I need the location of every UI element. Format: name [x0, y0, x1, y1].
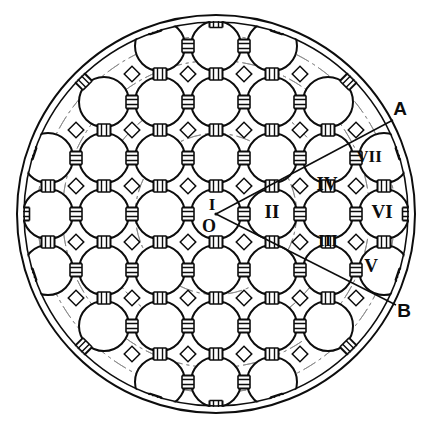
connector-body	[238, 208, 250, 221]
connector-body	[98, 180, 111, 192]
element-connector	[98, 180, 111, 192]
element-connector	[154, 68, 167, 80]
element-connector	[126, 96, 138, 109]
element-circle	[135, 133, 185, 183]
element-connector	[238, 264, 250, 277]
element-connector	[126, 264, 138, 277]
element-connector	[154, 348, 167, 360]
element-connector	[42, 180, 55, 192]
connector-body	[154, 292, 167, 304]
element-3-label: III	[318, 231, 338, 250]
connector-body	[238, 320, 250, 333]
element-connector	[238, 152, 250, 165]
connector-body	[322, 292, 335, 304]
element-connector	[70, 264, 82, 277]
element-connector	[378, 236, 391, 248]
element-circle	[191, 357, 241, 407]
connector-body	[126, 152, 138, 165]
connector-body	[238, 96, 250, 109]
connector-body	[238, 376, 250, 389]
element-connector	[238, 40, 250, 53]
element-connector	[182, 96, 194, 109]
origin-label-upper: I	[209, 195, 216, 214]
element-connector	[126, 208, 138, 221]
connector-body	[182, 152, 194, 165]
connector-body	[98, 292, 111, 304]
element-2-label: II	[265, 201, 280, 222]
connector-body	[266, 68, 279, 80]
connector-body	[98, 124, 111, 136]
element-connector	[350, 208, 362, 221]
element-circle	[79, 245, 129, 295]
connector-body	[154, 124, 167, 136]
element-connector	[210, 348, 223, 360]
packing-diagram: AB IIIIIIVVVIVII IO	[0, 0, 438, 435]
connector-body	[210, 124, 223, 136]
origin-dot	[214, 212, 217, 215]
connector-body	[294, 152, 306, 165]
connector-body	[210, 68, 223, 80]
figure-container: AB IIIIIIVVVIVII IO	[0, 0, 438, 435]
connector-body	[42, 180, 55, 192]
element-connector	[126, 320, 138, 333]
element-connector	[210, 68, 223, 80]
connector-body	[154, 236, 167, 248]
element-connector	[182, 152, 194, 165]
element-connector	[210, 180, 223, 192]
connector-body	[154, 180, 167, 192]
element-connector	[154, 124, 167, 136]
element-circle	[247, 245, 297, 295]
connector-body	[266, 292, 279, 304]
connector-body	[70, 152, 82, 165]
element-circle	[135, 189, 185, 239]
origin-label-lower: O	[202, 216, 216, 236]
element-connector	[154, 292, 167, 304]
element-connector	[182, 40, 194, 53]
connector-body	[378, 180, 391, 192]
connector-body	[210, 348, 223, 360]
connector-body	[266, 348, 279, 360]
connector-body	[154, 348, 167, 360]
element-circle	[191, 77, 241, 127]
element-circle	[135, 77, 185, 127]
element-connector	[98, 124, 111, 136]
element-5-label: V	[364, 255, 378, 276]
element-4-label: IV	[316, 173, 337, 194]
element-connector	[126, 152, 138, 165]
connector-body	[126, 96, 138, 109]
connector-body	[70, 264, 82, 277]
element-connector	[154, 236, 167, 248]
element-circle	[135, 245, 185, 295]
connector-body	[182, 40, 194, 53]
element-connector	[294, 96, 306, 109]
element-connector	[238, 320, 250, 333]
connector-body	[182, 376, 194, 389]
element-connector	[266, 68, 279, 80]
connector-body	[182, 208, 194, 221]
element-connector	[210, 292, 223, 304]
element-connector	[238, 96, 250, 109]
element-connector	[182, 264, 194, 277]
connector-body	[238, 152, 250, 165]
connector-body	[154, 68, 167, 80]
element-circle	[191, 245, 241, 295]
element-connector	[294, 264, 306, 277]
element-circle	[247, 301, 297, 351]
element-connector	[350, 264, 362, 277]
callout-a-label: A	[393, 98, 407, 119]
connector-body	[210, 236, 223, 248]
connector-body	[322, 124, 335, 136]
element-circle	[247, 77, 297, 127]
element-circle	[79, 133, 129, 183]
connector-body	[294, 264, 306, 277]
connector-body	[350, 264, 362, 277]
element-connector	[294, 152, 306, 165]
element-circle	[191, 133, 241, 183]
connector-body	[42, 236, 55, 248]
connector-body	[294, 320, 306, 333]
connector-body	[210, 180, 223, 192]
connector-body	[182, 320, 194, 333]
element-7-label: VII	[356, 147, 382, 166]
element-6-label: VI	[371, 201, 392, 222]
connector-body	[126, 264, 138, 277]
